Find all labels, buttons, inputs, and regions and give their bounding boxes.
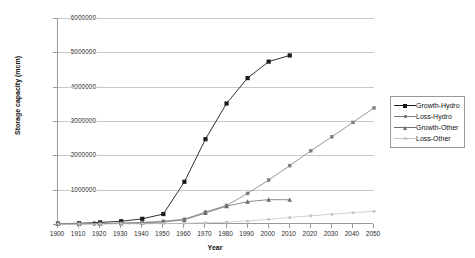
data-point (309, 149, 312, 152)
data-point (267, 178, 270, 181)
data-point (182, 180, 186, 184)
x-tick-label: 2050 (358, 230, 388, 237)
legend-item-growth-hydro[interactable]: Growth-Hydro (394, 100, 460, 111)
data-point (161, 212, 165, 216)
x-tick-mark (289, 224, 290, 228)
x-tick-mark (183, 224, 184, 228)
x-tick-mark (57, 224, 58, 228)
plot-area (57, 18, 373, 224)
data-point (309, 214, 312, 217)
x-tick-mark (99, 224, 100, 228)
x-tick-mark (247, 224, 248, 228)
legend-label: Growth-Other (416, 124, 458, 131)
x-tick-mark (78, 224, 79, 228)
data-point (224, 101, 228, 105)
x-tick-mark (226, 224, 227, 228)
legend-marker-icon (394, 133, 416, 144)
data-point (330, 135, 333, 138)
data-point (267, 218, 270, 221)
data-point (267, 60, 271, 64)
legend-marker-icon (394, 122, 416, 133)
series-line-loss-hydro (58, 108, 374, 224)
data-point (246, 192, 249, 195)
x-tick-mark (352, 224, 353, 228)
legend-item-loss-hydro[interactable]: Loss-Hydro (394, 111, 460, 122)
x-tick-mark (310, 224, 311, 228)
data-point (288, 164, 291, 167)
x-tick-mark (141, 224, 142, 228)
legend-label: Loss-Other (416, 135, 451, 142)
data-point (330, 213, 333, 216)
legend-label: Loss-Hydro (416, 113, 452, 120)
legend-item-loss-other[interactable]: Loss-Other (394, 133, 460, 144)
legend-marker-icon (394, 100, 416, 111)
data-point (351, 211, 354, 214)
legend-item-growth-other[interactable]: Growth-Other (394, 122, 460, 133)
data-point (140, 217, 144, 221)
x-tick-mark (373, 224, 374, 228)
chart-title (0, 0, 400, 1)
data-point (203, 137, 207, 141)
data-point (372, 106, 375, 109)
x-tick-mark (331, 224, 332, 228)
chart-legend: Growth-HydroLoss-HydroGrowth-OtherLoss-O… (390, 96, 465, 148)
data-point (288, 216, 291, 219)
x-axis-label: Year (57, 244, 373, 251)
x-tick-mark (268, 224, 269, 228)
x-tick-mark (162, 224, 163, 228)
y-axis-label: Storage capacity (mcm) (14, 41, 21, 151)
data-point (246, 76, 250, 80)
data-point (351, 121, 354, 124)
data-point (288, 53, 292, 57)
series-line-growth-hydro (58, 55, 290, 223)
data-point (246, 219, 249, 222)
x-tick-mark (204, 224, 205, 228)
legend-label: Growth-Hydro (416, 102, 460, 109)
x-tick-mark (120, 224, 121, 228)
legend-marker-icon (394, 111, 416, 122)
data-point (373, 210, 376, 213)
series-layer (58, 18, 374, 224)
